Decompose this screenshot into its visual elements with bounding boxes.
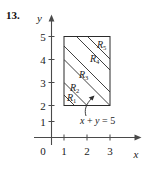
x-axis-arrowhead xyxy=(135,135,142,141)
origin-label: 0 xyxy=(40,145,46,157)
equation-term-x: x xyxy=(79,115,85,126)
region-label-R1-sub: 1 xyxy=(73,97,76,104)
region-label-R4-base: R xyxy=(89,53,96,64)
x-tick-label-3: 3 xyxy=(107,145,113,157)
region-label-R5-sub: 5 xyxy=(103,44,106,51)
x-axis-label: x xyxy=(133,148,139,160)
region-label-R5-base: R xyxy=(96,39,103,50)
y-tick-label-5: 5 xyxy=(40,31,46,43)
equation-rhs: 5 xyxy=(110,115,115,126)
equation-equals: = xyxy=(102,115,108,126)
region-label-R2-sub: 2 xyxy=(76,87,79,94)
y-axis-arrowhead xyxy=(49,15,55,22)
x-tick-label-1: 1 xyxy=(61,145,67,157)
y-ticks-group: 5 4 3 2 1 xyxy=(40,31,54,128)
region-label-R3-sub: 3 xyxy=(85,74,88,81)
region-label-R2-base: R xyxy=(69,82,76,93)
figure-container: 13. y x 5 4 3 2 1 0 xyxy=(0,0,149,169)
y-tick-label-3: 3 xyxy=(40,77,46,89)
y-tick-label-2: 2 xyxy=(40,100,46,112)
y-tick-label-4: 4 xyxy=(40,54,46,66)
region-label-R1-base: R xyxy=(66,92,73,103)
equation-term-y: y xyxy=(94,115,100,126)
equation-label: x+y=5 xyxy=(79,115,115,126)
coordinate-plot: y x 5 4 3 2 1 0 1 2 3 xyxy=(0,0,149,169)
y-axis-label: y xyxy=(36,12,42,24)
equation-plus: + xyxy=(87,115,93,126)
y-tick-label-1: 1 xyxy=(40,116,46,128)
region-label-R3-base: R xyxy=(78,69,85,80)
x-tick-label-2: 2 xyxy=(84,145,90,157)
